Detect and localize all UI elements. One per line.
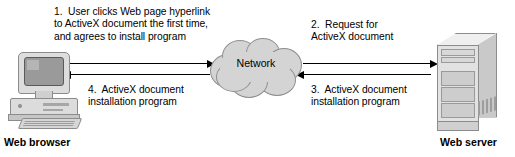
key-row	[23, 125, 73, 126]
arrow-network-to-server	[303, 63, 431, 64]
server-drive-bay	[441, 57, 475, 63]
drive-slot	[43, 109, 63, 111]
power-button-icon	[18, 104, 22, 108]
key-row	[24, 123, 74, 124]
keyboard-icon	[18, 118, 82, 129]
web-server-caption: Web server	[440, 136, 497, 148]
monitor-screen	[24, 57, 64, 86]
server-base	[437, 121, 479, 131]
server-drive-bay	[441, 87, 475, 102]
screen-glare	[27, 60, 39, 70]
key-row	[25, 121, 75, 122]
network-label: Network	[208, 57, 304, 69]
step-3-label: 3. ActiveX document installation program	[311, 84, 407, 109]
step-2-label: 2. Request for ActiveX document	[311, 19, 393, 44]
step-4-label: 4. ActiveX document installation program	[88, 84, 184, 109]
arrow-server-to-network	[303, 74, 431, 75]
web-browser-caption: Web browser	[4, 136, 70, 148]
arrow-network-to-browser	[70, 74, 210, 75]
cloud-icon: Network	[208, 38, 304, 96]
server-drive-bay	[441, 71, 475, 86]
desktop-computer-icon	[8, 52, 80, 130]
server-drive-bay	[441, 103, 475, 118]
drive-slot	[43, 103, 69, 106]
diagram-canvas: 1. User clicks Web page hyperlink to Act…	[0, 0, 515, 157]
server-drive-bay	[441, 49, 475, 56]
step-1-label: 1. User clicks Web page hyperlink to Act…	[54, 6, 210, 43]
tower-server-icon	[437, 33, 499, 131]
arrow-browser-to-network	[63, 63, 208, 64]
